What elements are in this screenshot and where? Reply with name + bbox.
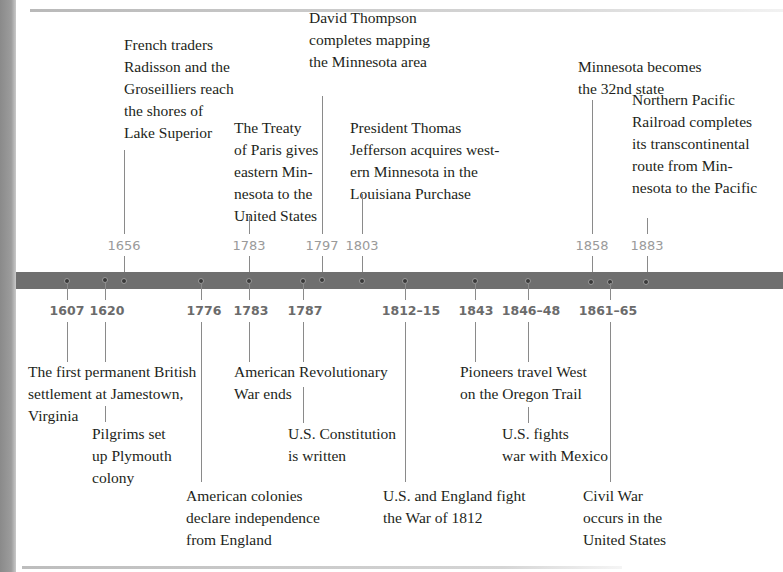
bottom-rule <box>22 566 622 569</box>
connector-line <box>201 283 202 300</box>
year-label: 1656 <box>107 238 140 253</box>
connector-line <box>528 283 529 300</box>
timeline-marker <box>359 278 365 284</box>
timeline-marker <box>588 279 594 285</box>
event-label: American colonies declare independence f… <box>186 485 320 551</box>
event-label: David Thompson completes mapping the Min… <box>309 7 430 73</box>
connector-line <box>67 283 68 300</box>
year-label: 1620 <box>90 303 125 318</box>
year-label: 1883 <box>630 238 663 253</box>
event-label: American Revolutionary War ends <box>234 361 388 405</box>
timeline-bar <box>16 272 783 289</box>
connector-line <box>362 194 363 234</box>
event-label: U.S. fights war with Mexico <box>502 423 608 467</box>
year-label: 1797 <box>305 238 338 253</box>
connector-line <box>105 406 106 422</box>
event-label: Pilgrims set up Plymouth colony <box>92 423 172 489</box>
connector-line <box>67 322 68 362</box>
page-edge-band <box>0 0 16 572</box>
connector-line <box>303 322 304 362</box>
connector-line <box>528 407 529 423</box>
connector-line <box>201 322 202 482</box>
event-label: U.S. and England fight the War of 1812 <box>383 485 526 529</box>
connector-line <box>303 387 304 423</box>
event-label: U.S. Constitution is written <box>288 423 396 467</box>
event-label: The Treaty of Paris gives eastern Min- n… <box>234 117 318 227</box>
connector-line <box>105 283 106 300</box>
connector-line <box>528 322 529 362</box>
connector-line <box>303 283 304 300</box>
connector-line <box>124 150 125 234</box>
connector-line <box>249 322 250 362</box>
connector-line <box>610 283 611 300</box>
timeline-marker <box>643 279 649 285</box>
connector-line <box>647 218 648 234</box>
year-label: 1607 <box>50 303 85 318</box>
year-label: 1787 <box>288 303 323 318</box>
year-label: 1858 <box>575 238 608 253</box>
year-label: 1783 <box>232 238 265 253</box>
event-label: Pioneers travel West on the Oregon Trail <box>460 361 587 405</box>
connector-line <box>249 216 250 234</box>
timeline-marker <box>319 277 325 283</box>
year-label: 1783 <box>234 303 269 318</box>
event-label: Civil War occurs in the United States <box>583 485 666 551</box>
connector-line <box>475 283 476 300</box>
connector-line <box>322 96 323 234</box>
event-label: The first permanent British settlement a… <box>28 361 196 427</box>
year-label: 1776 <box>187 303 222 318</box>
year-label: 1843 <box>459 303 494 318</box>
year-label: 1812–15 <box>382 303 440 318</box>
connector-line <box>105 322 106 362</box>
year-label: 1803 <box>345 238 378 253</box>
connector-line <box>610 322 611 482</box>
timeline-marker <box>121 278 127 284</box>
connector-line <box>592 100 593 234</box>
connector-line <box>405 322 406 482</box>
event-label: French traders Radisson and the Groseill… <box>124 34 234 144</box>
connector-line <box>249 283 250 300</box>
event-label: Northern Pacific Railroad completes its … <box>632 89 757 199</box>
connector-line <box>475 322 476 362</box>
year-label: 1861–65 <box>579 303 637 318</box>
connector-line <box>405 283 406 300</box>
year-label: 1846–48 <box>502 303 560 318</box>
event-label: President Thomas Jefferson acquires west… <box>350 117 500 205</box>
